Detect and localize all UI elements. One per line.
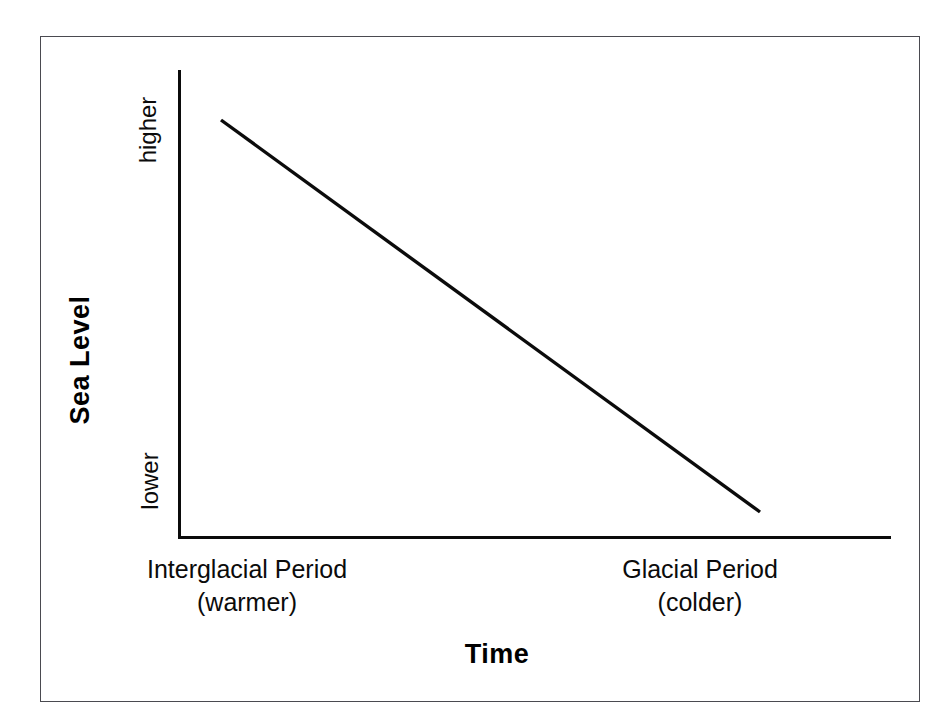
x-axis-title: Time bbox=[465, 639, 530, 669]
figure-root: higher lower Sea Level Interglacial Peri… bbox=[0, 0, 946, 724]
y-axis-line bbox=[178, 70, 181, 539]
x-category-glacial-line1: Glacial Period bbox=[622, 553, 778, 586]
x-category-interglacial-line2: (warmer) bbox=[147, 586, 347, 619]
x-category-glacial: Glacial Period (colder) bbox=[622, 553, 778, 619]
x-category-glacial-line2: (colder) bbox=[622, 586, 778, 619]
y-tick-label-lower: lower bbox=[138, 452, 162, 509]
x-axis-line bbox=[178, 536, 891, 539]
x-category-interglacial: Interglacial Period (warmer) bbox=[147, 553, 347, 619]
y-tick-label-higher: higher bbox=[136, 97, 160, 164]
y-axis-title: Sea Level bbox=[65, 295, 96, 424]
x-axis-title-wrap: Time bbox=[0, 639, 946, 670]
x-category-interglacial-line1: Interglacial Period bbox=[147, 553, 347, 586]
